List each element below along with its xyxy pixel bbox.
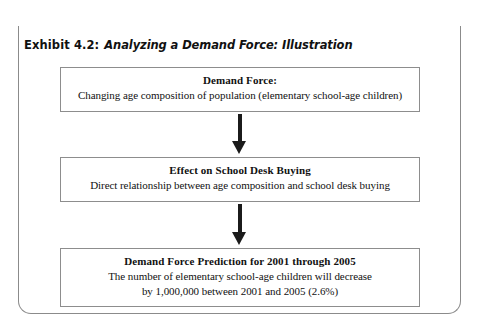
flow-box-line: Changing age composition of population (…	[67, 88, 413, 103]
flow-box-line: by 1,000,000 between 2001 and 2005 (2.6%…	[67, 284, 413, 299]
arrow-head	[232, 232, 246, 245]
flow-box-demand-force: Demand Force: Changing age composition o…	[60, 67, 420, 112]
flow-box-line: Direct relationship between age composit…	[67, 178, 413, 193]
arrow-head	[232, 141, 246, 154]
exhibit-title: Exhibit 4.2:Analyzing a Demand Force: Il…	[24, 36, 444, 54]
exhibit-number-label: Exhibit 4.2:	[24, 38, 99, 52]
flow-box-effect: Effect on School Desk Buying Direct rela…	[60, 157, 420, 202]
arrow-shaft	[238, 114, 242, 142]
flow-box-prediction: Demand Force Prediction for 2001 through…	[60, 248, 420, 307]
flow-box-title: Demand Force:	[67, 73, 413, 88]
arrow-shaft	[238, 204, 242, 233]
exhibit-subject-label: Analyzing a Demand Force: Illustration	[104, 38, 352, 52]
flow-box-line: The number of elementary school-age chil…	[67, 269, 413, 284]
arrow-down-icon	[232, 114, 247, 155]
arrow-down-icon	[232, 204, 247, 246]
flow-box-title: Effect on School Desk Buying	[67, 163, 413, 178]
exhibit-page: Exhibit 4.2:Analyzing a Demand Force: Il…	[0, 0, 478, 326]
flow-box-title: Demand Force Prediction for 2001 through…	[67, 254, 413, 269]
